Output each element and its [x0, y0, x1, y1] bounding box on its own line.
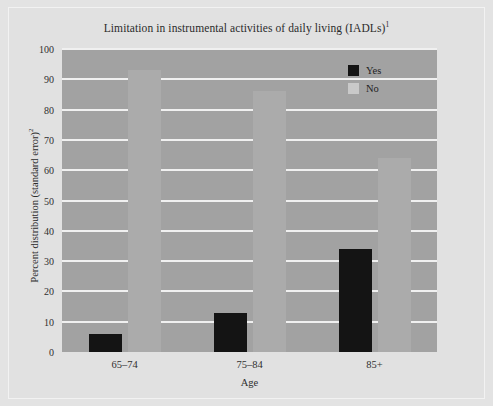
legend-swatch-icon — [348, 83, 359, 94]
legend-item-no[interactable]: No — [348, 80, 434, 96]
y-axis-tick-label: 70 — [6, 134, 54, 145]
bar-yes-3 — [339, 249, 372, 352]
y-axis-tick-label: 60 — [6, 165, 54, 176]
legend-swatch-icon — [348, 65, 359, 76]
legend-item-yes[interactable]: Yes — [348, 62, 434, 78]
x-axis-tick-label: 65–74 — [65, 359, 185, 370]
chart-title-text: Limitation in instrumental activities of… — [104, 22, 386, 34]
x-axis-label: Age — [62, 377, 437, 388]
y-axis-tick-label: 50 — [6, 195, 54, 206]
legend-item-label: Yes — [366, 65, 381, 76]
y-axis-label-footnote-marker: 2 — [27, 128, 35, 132]
bar-yes-2 — [214, 313, 247, 352]
bar-no-2 — [253, 91, 286, 352]
y-axis-tick-label: 0 — [6, 347, 54, 358]
gridline — [62, 139, 437, 141]
chart-figure: Limitation in instrumental activities of… — [0, 0, 493, 406]
x-axis-tick-label: 85+ — [315, 359, 435, 370]
y-axis-tick-label: 30 — [6, 256, 54, 267]
x-axis-tick-label: 75–84 — [190, 359, 310, 370]
chart-legend: YesNo — [348, 62, 434, 98]
y-axis-tick-label: 20 — [6, 286, 54, 297]
bar-yes-1 — [89, 334, 122, 352]
gridline — [62, 109, 437, 111]
y-axis-tick-label: 90 — [6, 74, 54, 85]
chart-title-footnote-marker: 1 — [385, 20, 389, 29]
bar-no-1 — [128, 70, 161, 352]
y-axis-tick-label: 40 — [6, 225, 54, 236]
gridline — [62, 48, 437, 50]
legend-item-label: No — [366, 83, 379, 94]
chart-title: Limitation in instrumental activities of… — [0, 22, 493, 34]
y-axis-tick-label: 80 — [6, 104, 54, 115]
bar-no-3 — [378, 158, 411, 352]
y-axis-tick-label: 100 — [6, 44, 54, 55]
y-axis-tick-label: 10 — [6, 316, 54, 327]
